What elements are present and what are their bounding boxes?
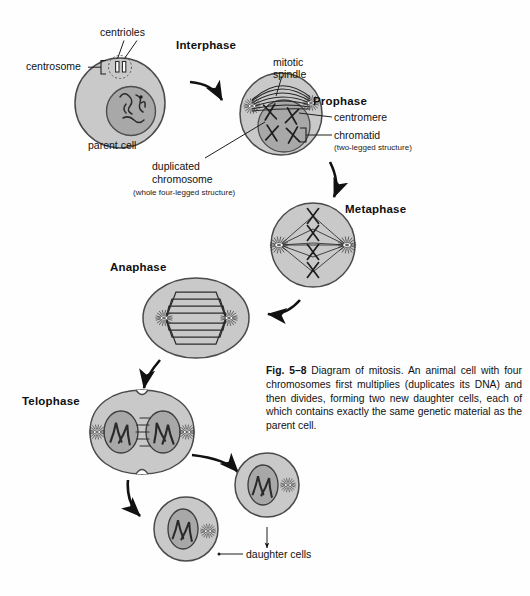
prophase-cell [205, 73, 332, 158]
figure-caption: Fig. 5–8 Diagram of mitosis. An animal c… [266, 364, 522, 433]
label-centrosome: centrosome [26, 60, 81, 72]
phase-label-metaphase: Metaphase [345, 203, 406, 216]
phase-label-telophase: Telophase [22, 395, 80, 408]
daughter-cell-upper [235, 453, 299, 548]
label-centrioles: centrioles [100, 26, 145, 38]
label-duplicated-chromosome-line2: chromosome [152, 173, 213, 185]
arrow-telophase-to-daughter-upper [192, 455, 238, 472]
label-duplicated-chromosome-sub: (whole four-legged structure) [133, 188, 235, 197]
phase-label-prophase: Prophase [313, 95, 367, 108]
arrow-prophase-to-metaphase [330, 162, 336, 197]
label-chromatid-sub: (two-legged structure) [334, 143, 412, 152]
anaphase-cell [143, 278, 249, 358]
figure-caption-id: Fig. 5–8 [266, 365, 306, 376]
label-chromatid: chromatid [334, 129, 380, 141]
label-parent-cell: parent cell [88, 139, 136, 151]
daughter-nucleus-right [146, 411, 180, 453]
label-duplicated-chromosome-line1: duplicated [152, 160, 200, 172]
arrow-telophase-to-daughter-lower [128, 480, 140, 516]
daughter-cell-lower [154, 497, 243, 561]
telophase-cell [89, 390, 195, 474]
label-daughter-cells: daughter cells [246, 548, 311, 560]
daughter-nucleus-left [104, 411, 138, 453]
mitosis-diagram-canvas [0, 0, 530, 596]
phase-label-interphase: Interphase [176, 39, 236, 52]
metaphase-cell [270, 203, 356, 287]
mitosis-figure: Interphase Prophase Metaphase Anaphase T… [0, 0, 530, 596]
interphase-cell [75, 41, 165, 149]
arrow-anaphase-to-telophase [144, 360, 160, 388]
arrow-metaphase-to-anaphase [268, 300, 300, 314]
label-centromere: centromere [334, 111, 387, 123]
phase-label-anaphase: Anaphase [110, 261, 167, 274]
arrow-interphase-to-prophase [190, 82, 222, 100]
label-mitotic-spindle-line2: spindle [273, 68, 306, 80]
label-mitotic-spindle-line1: mitotic [273, 56, 303, 68]
